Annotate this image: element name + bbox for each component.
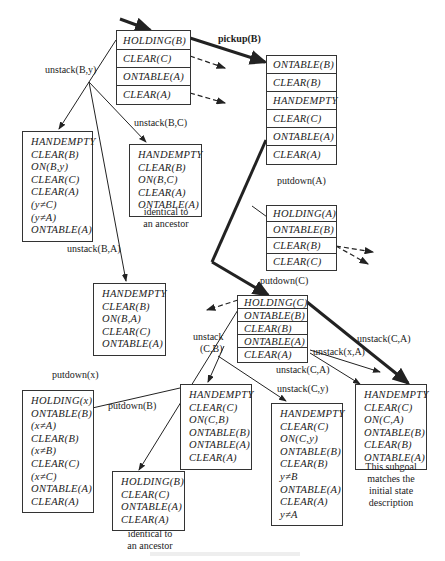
edge-label-unstack-c-b-line2: (C,B) (200, 343, 223, 354)
condition: CLEAR(A) (31, 496, 85, 509)
edge-label-unstack-c-a: unstack(C,A) (276, 364, 330, 375)
condition: CLEAR(C) (102, 326, 157, 339)
node-unstack-b-a: HANDEMPTY CLEAR(B) ON(B,A) CLEAR(C) ONTA… (93, 283, 166, 356)
node-putdown-x: HOLDING(x) ONTABLE(B) (x≠A) CLEAR(B) (x≠… (22, 390, 94, 513)
condition: CLEAR(B) (102, 301, 157, 314)
condition: ON(B,A) (102, 313, 157, 326)
condition: ONTABLE(A) (121, 501, 176, 514)
condition: ONTABLE(A) (189, 439, 243, 452)
condition: CLEAR(B) (238, 322, 307, 335)
condition: HOLDING(x) (31, 395, 85, 408)
node-root-goal: HOLDING(B) CLEAR(C) ONTABLE(A) CLEAR(A) (116, 30, 191, 105)
condition: (x≠B) (31, 445, 85, 458)
condition: ONTABLE(B) (267, 56, 336, 74)
condition: CLEAR(C) (121, 489, 176, 502)
condition: CLEAR(C) (31, 174, 84, 187)
condition: CLEAR(C) (280, 421, 334, 434)
condition: (x≠A) (31, 420, 85, 433)
condition: CLEAR(B) (31, 433, 85, 446)
figure-caption-faint (150, 552, 300, 556)
edge-label-putdown-b: putdown(B) (108, 400, 156, 411)
condition: ONTABLE(A) (280, 484, 334, 497)
condition: CLEAR(B) (364, 439, 418, 452)
condition: ONTABLE(B) (189, 427, 243, 440)
condition: ONTABLE(A) (267, 128, 336, 146)
condition: CLEAR(C) (364, 402, 418, 415)
condition: ON(B,y) (31, 161, 84, 174)
condition: CLEAR(A) (280, 496, 334, 509)
condition: ONTABLE(A) (31, 224, 84, 237)
condition: ONTABLE(B) (267, 222, 336, 238)
edge-label-unstack-x-a: unstack(x,A) (313, 346, 365, 357)
condition: CLEAR(B) (138, 162, 193, 175)
condition: HANDEMPTY (280, 408, 334, 421)
condition: ON(C,y) (280, 433, 334, 446)
condition: HANDEMPTY (102, 288, 157, 301)
node-note-initial-state-match: This subgoal matches the initial state d… (361, 461, 421, 509)
condition: HANDEMPTY (364, 389, 418, 402)
condition: CLEAR(C) (189, 402, 243, 415)
condition: ONTABLE(A) (31, 483, 85, 496)
node-unstack-c-a-goal-match: HANDEMPTY CLEAR(C) ON(C,A) ONTABLE(B) CL… (355, 384, 427, 470)
node-putdown-b: HOLDING(B) CLEAR(C) ONTABLE(A) CLEAR(A) (112, 471, 185, 531)
condition: CLEAR(B) (31, 149, 84, 162)
condition: CLEAR(B) (267, 74, 336, 92)
edge-label-unstack-b-a: unstack(B,A) (67, 243, 121, 254)
condition: (y≠C) (31, 199, 84, 212)
node-unstack-b-y: HANDEMPTY CLEAR(B) ON(B,y) CLEAR(C) CLEA… (22, 131, 93, 242)
condition: HOLDING(B) (121, 476, 176, 489)
condition: ON(C,A) (364, 414, 418, 427)
condition: CLEAR(A) (121, 514, 176, 527)
node-note-identical-ancestor-2: identical to an ancestor (124, 528, 176, 552)
condition: ONTABLE(B) (364, 427, 418, 440)
node-unstack-c-y: HANDEMPTY CLEAR(C) ON(C,y) ONTABLE(B) CL… (271, 403, 343, 526)
condition: CLEAR(C) (117, 50, 190, 68)
condition: CLEAR(C) (267, 110, 336, 128)
condition: ON(C,B) (189, 414, 243, 427)
condition: y≠B (280, 471, 334, 484)
condition: HANDEMPTY (189, 389, 243, 402)
condition: ONTABLE(A) (102, 338, 157, 351)
edge-label-putdown-a: putdown(A) (277, 175, 326, 186)
edge-label-putdown-c: putdown(C) (260, 275, 308, 286)
condition: (y≠A) (31, 212, 84, 225)
condition: CLEAR(A) (138, 187, 193, 200)
condition: CLEAR(B) (267, 238, 336, 254)
edge-label-unstack-c-y: unstack(C,y) (277, 383, 328, 394)
condition: ON(B,C) (138, 174, 193, 187)
condition: ONTABLE(B) (238, 309, 307, 322)
condition: HOLDING(C) (238, 296, 307, 309)
node-putdown-c: HOLDING(C) ONTABLE(B) CLEAR(B) ONTABLE(A… (237, 295, 308, 363)
edge-label-unstack-c-a-bold: unstack(C,A) (357, 333, 411, 344)
condition: HOLDING(A) (267, 206, 336, 222)
condition: ONTABLE(A) (238, 335, 307, 348)
condition: (x≠C) (31, 471, 85, 484)
edge-label-unstack-c-b-line1: unstack (193, 331, 224, 342)
node-pickup-result: ONTABLE(B) CLEAR(B) HANDEMPTY CLEAR(C) O… (266, 55, 337, 165)
node-note-identical-ancestor: identical to an ancestor (140, 206, 192, 230)
condition: HANDEMPTY (267, 92, 336, 110)
condition: CLEAR(C) (31, 458, 85, 471)
condition: CLEAR(A) (238, 348, 307, 362)
edge-label-unstack-b-y: unstack(B,y) (45, 64, 96, 75)
node-putdown-a: HOLDING(A) ONTABLE(B) CLEAR(B) CLEAR(C) (266, 205, 337, 271)
condition: HOLDING(B) (117, 31, 190, 50)
condition: HANDEMPTY (31, 136, 84, 149)
edge-label-unstack-b-c: unstack(B,C) (134, 117, 187, 128)
condition: CLEAR(A) (189, 452, 243, 465)
condition: ONTABLE(B) (280, 446, 334, 459)
condition: CLEAR(A) (117, 86, 190, 104)
edge-label-putdown-x: putdown(x) (52, 369, 99, 380)
condition: CLEAR(C) (267, 254, 336, 270)
condition: ONTABLE(A) (117, 68, 190, 86)
condition: CLEAR(A) (267, 146, 336, 164)
condition: CLEAR(B) (280, 458, 334, 471)
node-unstack-c-b: HANDEMPTY CLEAR(C) ON(C,B) ONTABLE(B) ON… (180, 384, 252, 470)
edge-label-pickup: pickup(B) (218, 33, 261, 44)
condition: y≠A (280, 509, 334, 522)
condition: CLEAR(A) (31, 186, 84, 199)
condition: HANDEMPTY (138, 149, 193, 162)
condition: ONTABLE(B) (31, 408, 85, 421)
